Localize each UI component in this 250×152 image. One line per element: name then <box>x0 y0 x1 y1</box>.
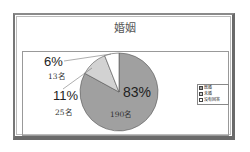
legend-swatch-married <box>199 86 203 90</box>
legend-swatch-no-answer <box>199 98 203 102</box>
legend-swatch-unmarried <box>199 92 203 96</box>
label-pct-no-answer: 6% <box>44 54 63 69</box>
label-pct-married: 83% <box>123 84 151 100</box>
legend-label-no-answer: 没有回答 <box>204 98 220 102</box>
legend-label-married: 既婚 <box>204 86 212 90</box>
legend-item-no-answer: 没有回答 <box>198 97 228 103</box>
label-count-no-answer: 13名 <box>48 70 65 81</box>
pie-chart <box>0 0 250 152</box>
label-pct-unmarried: 11% <box>53 88 78 103</box>
legend: 既婚 未婚 没有回答 <box>197 84 229 105</box>
label-count-married: 190名 <box>110 108 131 119</box>
legend-label-unmarried: 未婚 <box>204 92 212 96</box>
label-count-unmarried: 25名 <box>55 106 72 117</box>
